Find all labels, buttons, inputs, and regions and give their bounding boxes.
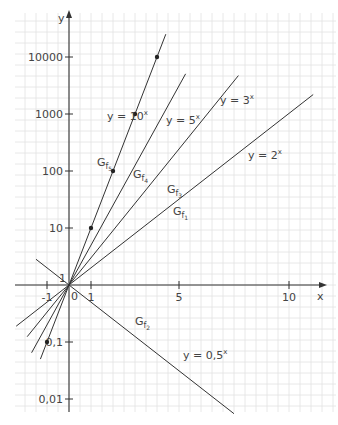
y-tick-label: 1000 xyxy=(35,108,63,121)
chart-canvas: xy -1015101000010001001010,10,01 y = 10x… xyxy=(0,0,338,425)
axes: xy xyxy=(15,10,327,412)
x-tick-label: 10 xyxy=(282,291,296,304)
y-axis-arrow-icon xyxy=(66,10,72,18)
data-point xyxy=(45,340,49,344)
y-tick-label: 10 xyxy=(49,222,63,235)
equation-label: y = 5x xyxy=(166,113,200,127)
labels: y = 10xy = 5xy = 3xy = 2xy = 0,5xGf5Gf4G… xyxy=(97,93,282,362)
equation-label: y = 2x xyxy=(248,148,282,162)
exponential-functions-chart: xy -1015101000010001001010,10,01 y = 10x… xyxy=(0,0,338,425)
x-axis-label: x xyxy=(317,290,324,303)
y-tick-label: 1 xyxy=(59,272,66,285)
equation-label: y = 3x xyxy=(220,93,254,107)
y-tick-label: 0,01 xyxy=(39,393,64,406)
x-axis-arrow-icon xyxy=(319,282,327,288)
x-tick-label: 5 xyxy=(176,291,183,304)
equation-label: y = 10x xyxy=(107,109,148,123)
curve-g-f1 xyxy=(16,95,313,327)
data-point xyxy=(89,226,93,230)
x-tick-label: 1 xyxy=(88,291,95,304)
x-tick-label: -1 xyxy=(42,291,53,304)
data-point xyxy=(155,55,159,59)
y-tick-label: 10000 xyxy=(28,51,63,64)
equation-label: y = 0,5x xyxy=(183,348,227,362)
x-tick-label: 0 xyxy=(71,290,78,303)
y-axis-label: y xyxy=(58,12,65,25)
y-tick-label: 100 xyxy=(42,165,63,178)
